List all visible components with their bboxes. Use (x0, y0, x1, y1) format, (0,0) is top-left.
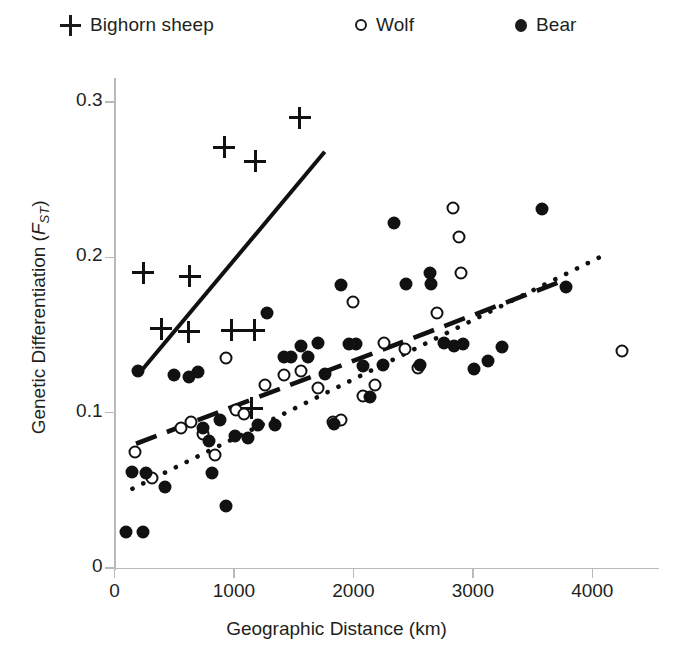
data-point-bear (158, 481, 171, 494)
data-point-bear (457, 338, 470, 351)
data-point-bear (119, 526, 132, 539)
data-point-bighorn-sheep (132, 262, 154, 284)
data-point-bear (229, 429, 242, 442)
data-point-wolf (208, 448, 221, 461)
data-point-bighorn-sheep (150, 318, 172, 340)
data-point-wolf (454, 266, 467, 279)
data-point-bear (495, 341, 508, 354)
data-point-bear (377, 358, 390, 371)
data-point-bear (132, 364, 145, 377)
data-point-bear (126, 465, 139, 478)
data-point-wolf (278, 369, 291, 382)
data-point-bear (168, 369, 181, 382)
data-point-bighorn-sheep (221, 319, 243, 341)
x-axis-label: Geographic Distance (km) (0, 618, 673, 640)
y-axis-label-symbol: F (28, 223, 49, 235)
data-point-bear (425, 277, 438, 290)
data-point-wolf (398, 343, 411, 356)
data-point-wolf (219, 352, 232, 365)
data-point-wolf (311, 381, 324, 394)
data-point-bear (560, 280, 573, 293)
y-axis-label-main: Genetic Differentiation ( (28, 235, 49, 434)
data-point-bear (399, 277, 412, 290)
data-point-bear (414, 358, 427, 371)
data-point-wolf (129, 445, 142, 458)
data-point-bear (206, 467, 219, 480)
data-point-bear (219, 499, 232, 512)
plot-area: 00.10.20.3 01000200030004000 Geographic … (0, 0, 673, 666)
data-point-bear (482, 355, 495, 368)
data-point-bighorn-sheep (213, 136, 235, 158)
data-point-wolf (237, 408, 250, 421)
data-point-wolf (347, 296, 360, 309)
data-point-bear (335, 279, 348, 292)
data-point-bighorn-sheep (178, 321, 200, 343)
data-point-bear (364, 391, 377, 404)
data-point-wolf (431, 307, 444, 320)
data-point-bear (311, 336, 324, 349)
y-axis-label-subscript: ST (37, 207, 52, 224)
data-point-bighorn-sheep (244, 150, 266, 172)
data-point-bear (251, 419, 264, 432)
data-point-bear (328, 417, 341, 430)
data-point-wolf (616, 344, 629, 357)
data-point-bear (137, 526, 150, 539)
data-point-wolf (446, 201, 459, 214)
data-point-bear (468, 363, 481, 376)
data-point-wolf (368, 378, 381, 391)
trendlines-layer (0, 0, 673, 666)
scatter-plot-figure: Bighorn sheep Wolf Bear 00.10.20.3 01000… (0, 0, 673, 666)
data-point-bear (302, 350, 315, 363)
data-point-bighorn-sheep (289, 107, 311, 129)
data-point-bear (268, 419, 281, 432)
data-point-bear (213, 414, 226, 427)
data-point-bear (139, 467, 152, 480)
data-point-wolf (378, 336, 391, 349)
data-point-wolf (259, 378, 272, 391)
data-point-bear (388, 217, 401, 230)
data-point-bear (318, 367, 331, 380)
data-point-bighorn-sheep (179, 265, 201, 287)
data-point-bear (356, 360, 369, 373)
data-point-bear (196, 422, 209, 435)
data-point-bear (261, 307, 274, 320)
data-point-bear (285, 350, 298, 363)
data-point-bighorn-sheep (243, 319, 265, 341)
data-point-wolf (294, 364, 307, 377)
data-point-bear (536, 203, 549, 216)
y-axis-label-close: ) (28, 200, 49, 206)
data-point-bear (202, 434, 215, 447)
data-point-bear (349, 338, 362, 351)
data-point-bear (242, 431, 255, 444)
y-axis-label: Genetic Differentiation (FST) (28, 107, 53, 527)
data-point-bear (192, 366, 205, 379)
data-point-wolf (452, 231, 465, 244)
